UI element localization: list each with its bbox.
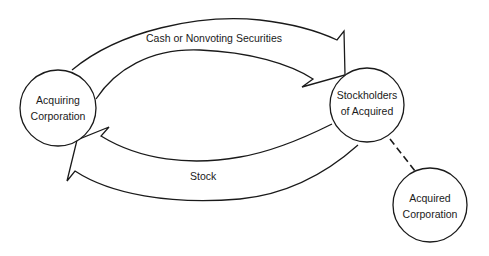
acquired-line1: Acquired <box>390 190 470 206</box>
top-flow-label: Cash or Nonvoting Securities <box>146 32 282 44</box>
acquired-line2: Corporation <box>390 206 470 222</box>
top-flow-arrow <box>72 19 345 99</box>
acquiring-line1: Acquiring <box>18 92 98 108</box>
dashed-link <box>390 139 415 171</box>
acquiring-line2: Corporation <box>18 108 98 124</box>
bottom-flow-arrow <box>67 124 358 201</box>
stockholders-line2: of Acquired <box>326 103 408 119</box>
bottom-flow-label: Stock <box>190 170 216 182</box>
acquired-corporation-label: Acquired Corporation <box>390 190 470 222</box>
stockholders-line1: Stockholders <box>326 87 408 103</box>
stockholders-label: Stockholders of Acquired <box>326 87 408 119</box>
acquiring-corporation-label: Acquiring Corporation <box>18 92 98 124</box>
